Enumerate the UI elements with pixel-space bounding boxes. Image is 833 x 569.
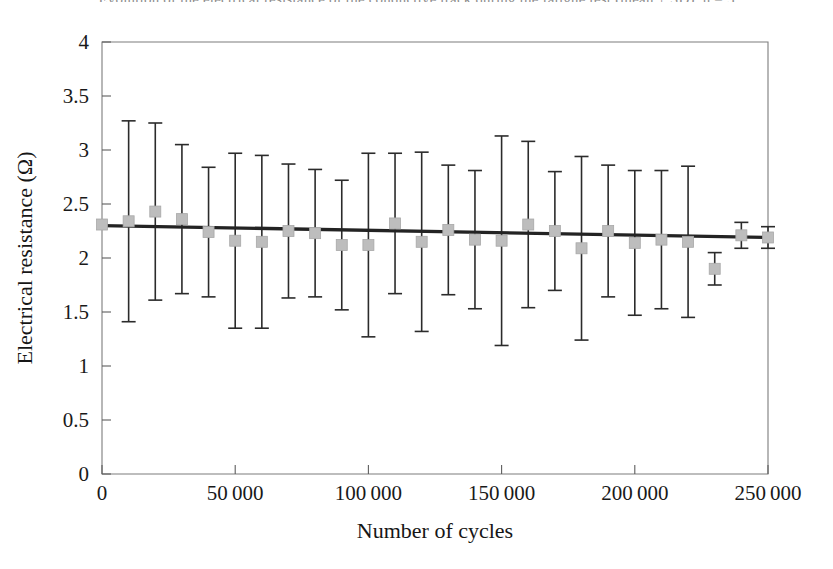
plot-frame	[102, 42, 768, 474]
data-point-marker	[603, 226, 614, 237]
data-point-marker	[443, 224, 454, 235]
data-point-marker	[363, 240, 374, 251]
y-axis-label: Electrical resistance (Ω)	[12, 151, 37, 364]
x-tick-label: 100 000	[335, 481, 402, 505]
y-tick-label: 0	[79, 462, 90, 486]
data-point-marker	[416, 236, 427, 247]
x-tick-label: 200 000	[601, 481, 668, 505]
data-point-marker	[97, 219, 108, 230]
axes-frame	[102, 42, 768, 474]
data-point-marker	[283, 226, 294, 237]
trend-line	[102, 226, 768, 238]
y-tick-label: 4	[79, 30, 90, 54]
data-point-marker	[203, 227, 214, 238]
x-tick-label: 150 000	[468, 481, 535, 505]
data-point-marker	[736, 230, 747, 241]
data-point-marker	[256, 236, 267, 247]
data-point-marker	[523, 219, 534, 230]
axis-ticks	[102, 42, 768, 474]
x-tick-label: 50 000	[207, 481, 264, 505]
data-point-marker	[150, 206, 161, 217]
data-point-marker	[549, 226, 560, 237]
y-tick-label: 3.5	[63, 84, 89, 108]
y-tick-label: 1	[79, 354, 90, 378]
x-axis-label: Number of cycles	[357, 518, 513, 543]
data-point-marker	[123, 216, 134, 227]
x-tick-label: 250 000	[734, 481, 801, 505]
data-point-marker	[176, 214, 187, 225]
data-point-marker	[763, 232, 774, 243]
y-tick-label: 3	[79, 138, 90, 162]
data-point-marker	[656, 234, 667, 245]
resistance-vs-cycles-chart: 050 000100 000150 000200 000250 000 00.5…	[0, 0, 833, 569]
x-tick-labels: 050 000100 000150 000200 000250 000	[97, 481, 802, 505]
data-point-marker	[390, 218, 401, 229]
y-tick-label: 2.5	[63, 192, 89, 216]
data-point-marker	[230, 235, 241, 246]
regression-line	[102, 226, 768, 238]
y-tick-label: 1.5	[63, 300, 89, 324]
data-point-marker	[629, 237, 640, 248]
data-point-marker	[576, 243, 587, 254]
data-point-marker	[336, 240, 347, 251]
data-point-marker	[469, 234, 480, 245]
y-tick-label: 0.5	[63, 408, 89, 432]
x-tick-label: 0	[97, 481, 108, 505]
y-tick-labels: 00.511.522.533.54	[63, 30, 90, 486]
data-point-marker	[496, 235, 507, 246]
y-tick-label: 2	[79, 246, 90, 270]
data-point-marker	[709, 263, 720, 274]
data-point-marker	[310, 228, 321, 239]
data-point-marker	[683, 236, 694, 247]
data-markers	[97, 206, 774, 274]
figure-container: Evolution of the electrical resistance o…	[0, 0, 833, 569]
